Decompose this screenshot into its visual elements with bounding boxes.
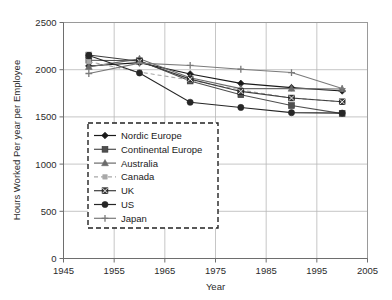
x-axis-title: Year	[206, 281, 225, 292]
chart-svg: 05001000150020002500 1945195519651975198…	[0, 0, 392, 300]
legend-item-label: US	[121, 199, 134, 210]
data-point	[289, 103, 295, 109]
x-axis-tick-label: 1985	[256, 265, 277, 276]
line-chart: 05001000150020002500 1945195519651975198…	[0, 0, 392, 300]
legend-marker	[102, 201, 108, 207]
data-point	[288, 110, 294, 116]
y-axis-tick-label: 1000	[35, 159, 56, 170]
data-point	[136, 70, 142, 76]
data-point	[238, 89, 244, 95]
legend-item-label: Australia	[121, 158, 159, 169]
data-point	[289, 95, 295, 101]
x-axis-tick-label: 1965	[154, 265, 175, 276]
data-point	[187, 76, 193, 82]
legend-item-label: Japan	[121, 213, 147, 224]
x-axis-tick-label: 1975	[205, 265, 226, 276]
x-axis: 1945195519651975198519952005	[53, 259, 378, 276]
x-axis-tick-label: 1945	[53, 265, 74, 276]
legend-item-label: Continental Europe	[121, 144, 202, 155]
legend-item-label: UK	[121, 185, 135, 196]
y-axis-tick-label: 1500	[35, 111, 56, 122]
data-point	[87, 59, 91, 63]
x-axis-tick-label: 1995	[306, 265, 327, 276]
x-axis-tick-label: 2005	[357, 265, 378, 276]
legend-item-label: Nordic Europe	[121, 130, 182, 141]
y-axis-tick-label: 0	[51, 253, 56, 264]
y-axis-tick-label: 2000	[35, 64, 56, 75]
data-point	[86, 52, 92, 58]
chart-legend: Nordic EuropeContinental EuropeAustralia…	[88, 123, 218, 228]
legend-marker	[102, 188, 108, 194]
legend-marker	[102, 146, 108, 152]
y-axis-tick-label: 500	[41, 206, 57, 217]
data-point	[339, 99, 345, 105]
y-axis-tick-label: 2500	[35, 17, 56, 28]
data-point	[187, 99, 193, 105]
legend-item-label: Canada	[121, 171, 155, 182]
data-point	[339, 110, 345, 116]
x-axis-tick-label: 1955	[104, 265, 125, 276]
y-axis-title: Hours Worked Per year per Employee	[11, 60, 22, 220]
y-axis: 05001000150020002500	[35, 17, 63, 264]
legend-marker	[103, 175, 107, 179]
data-point	[238, 104, 244, 110]
